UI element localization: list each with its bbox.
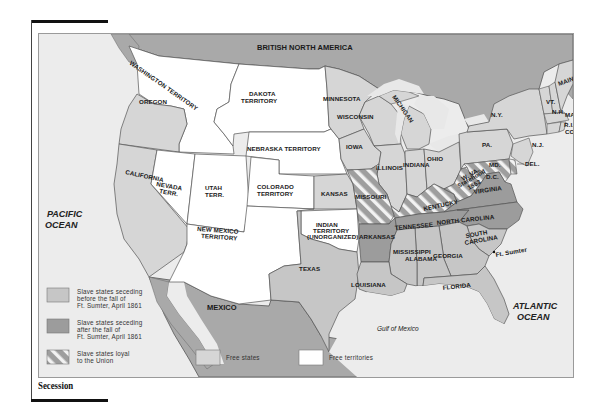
map-caption: Secession — [38, 380, 73, 391]
label-georgia: GEORGIA — [433, 252, 463, 259]
label-atlantic-1: ATLANTIC — [512, 301, 558, 311]
frame-bottom-bar — [31, 399, 108, 402]
label-gulf-of-mexico: Gulf of Mexico — [377, 325, 419, 332]
legend-text-line: Free territories — [329, 354, 373, 361]
legend-swatch-free-states — [196, 350, 220, 365]
legend-swatch-free-territories — [299, 350, 323, 365]
legend-text-line: before the fall of — [77, 295, 126, 302]
label-fort-sumter: Ft. Sumter — [495, 246, 528, 258]
label-dakota-2: TERRITORY — [241, 97, 278, 104]
label-vermont: VT. — [546, 98, 555, 105]
label-arkansas: ARKANSAS — [359, 233, 395, 240]
legend-text-line: Ft. Sumter, April 1861 — [77, 333, 142, 341]
label-colorado-2: TERRITORY — [257, 190, 294, 197]
indiana-state — [405, 149, 427, 197]
frame-left-rule — [31, 20, 32, 401]
label-connecticut: CONN. — [565, 128, 573, 135]
label-dakota-1: DAKOTA — [249, 90, 276, 97]
label-wisconsin: WISCONSIN — [337, 113, 374, 120]
label-colorado-1: COLORADO — [257, 183, 294, 190]
label-new-york: N.Y. — [491, 111, 503, 118]
label-dc: D.C. — [486, 173, 499, 180]
legend-swatch-slave-after — [47, 319, 69, 333]
label-illinois: ILLINOIS — [376, 164, 403, 171]
label-kansas: KANSAS — [321, 190, 348, 197]
label-british-north-america: BRITISH NORTH AMERICA — [257, 43, 353, 52]
label-new-hampshire: N.H. — [552, 108, 565, 115]
label-utah-2: TERR. — [205, 191, 224, 198]
label-massachusetts: MASS. — [565, 111, 573, 118]
label-minnesota: MINNESOTA — [323, 95, 361, 102]
label-pacific-2: OCEAN — [45, 220, 78, 230]
label-iowa: IOWA — [346, 143, 363, 150]
legend-swatch-slave-loyal — [47, 350, 69, 364]
legend-swatch-slave-before — [47, 288, 69, 302]
label-new-jersey: N.J. — [532, 141, 544, 148]
legend-item-slave-after: Slave states seceding after the fall of … — [47, 319, 143, 341]
frame-top-bar — [31, 20, 108, 23]
label-rhode-island: R.I. — [564, 121, 573, 128]
secession-map: BRITISH NORTH AMERICA WASHINGTON TERRITO… — [39, 34, 573, 377]
label-missouri: MISSOURI — [355, 193, 387, 200]
label-delaware: DEL. — [525, 160, 540, 167]
label-louisiana: LOUISIANA — [351, 281, 386, 288]
legend-text-line: Free states — [226, 354, 260, 361]
legend-text-line: after the fall of — [77, 326, 120, 333]
label-oregon: OREGON — [139, 98, 168, 105]
label-ohio: OHIO — [427, 155, 443, 162]
label-pacific-1: PACIFIC — [47, 209, 83, 219]
label-mexico: MEXICO — [207, 303, 237, 312]
label-maryland: MD. — [489, 161, 501, 168]
legend-item-slave-before: Slave states seceding before the fall of… — [47, 288, 143, 310]
label-indiana: INDIANA — [403, 161, 430, 168]
label-mississippi: MISSISSIPPI — [393, 248, 431, 255]
label-indian-3: (UNORGANIZED) — [307, 233, 358, 240]
gulf-of-mexico — [329, 284, 509, 377]
label-atlantic-2: OCEAN — [517, 312, 550, 322]
label-pennsylvania: PA. — [482, 141, 492, 148]
label-nebraska: NEBRASKA TERRITORY — [247, 145, 322, 152]
label-utah-1: UTAH — [205, 184, 223, 191]
legend-text-line: Ft. Sumter, April 1861 — [77, 302, 142, 310]
legend-text-line: to the Union — [77, 357, 114, 364]
legend-item-slave-loyal: Slave states loyal to the Union — [47, 350, 130, 364]
map-panel: BRITISH NORTH AMERICA WASHINGTON TERRITO… — [38, 33, 574, 378]
label-texas: TEXAS — [299, 265, 320, 272]
